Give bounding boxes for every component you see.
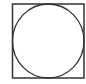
- inscribed-circle: [13, 4, 85, 78]
- inscribed-circle-diagram: [0, 0, 86, 84]
